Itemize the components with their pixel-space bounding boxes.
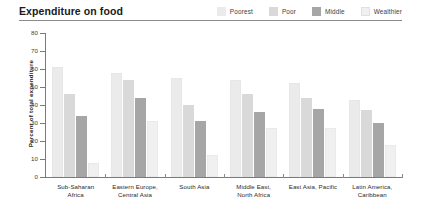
legend-label: Wealthier — [374, 8, 402, 15]
x-axis-group-tick — [224, 174, 225, 178]
bar-middle — [254, 112, 265, 177]
bar-poor — [64, 94, 75, 177]
bar-poorest — [230, 80, 241, 177]
chart-legend: PoorestPoorMiddleWealthier — [217, 7, 402, 16]
y-axis-tick — [40, 177, 46, 178]
bar-poorest — [349, 100, 360, 177]
bar-wealthier — [385, 145, 396, 177]
x-axis-group-tick — [283, 174, 284, 178]
bar-poor — [242, 94, 253, 177]
legend-swatch-icon — [361, 7, 370, 16]
bar-middle — [195, 121, 206, 177]
x-axis-category-label: Sub-SaharanAfrica — [46, 183, 105, 198]
bar-poorest — [289, 83, 300, 177]
bar-group — [105, 33, 164, 177]
legend-swatch-icon — [312, 7, 321, 16]
x-axis-category-label: East Asia, Pacific — [283, 183, 342, 191]
chart-figure: Expenditure on food PoorestPoorMiddleWea… — [0, 0, 421, 211]
bar-group — [46, 33, 105, 177]
legend-swatch-icon — [217, 7, 226, 16]
legend-label: Poor — [282, 8, 296, 15]
legend-item-poor: Poor — [269, 7, 296, 16]
bar-poor — [301, 98, 312, 177]
bar-middle — [313, 109, 324, 177]
bar-poor — [361, 110, 372, 177]
y-axis-tick-label: 30 — [20, 120, 38, 126]
legend-swatch-icon — [269, 7, 278, 16]
x-axis-group-tick — [105, 174, 106, 178]
chart-title: Expenditure on food — [19, 5, 123, 17]
bar-poorest — [111, 73, 122, 177]
bar-wealthier — [147, 121, 158, 177]
bar-wealthier — [207, 155, 218, 177]
y-axis-tick-label: 80 — [20, 30, 38, 36]
chart-header: Expenditure on food PoorestPoorMiddleWea… — [19, 3, 402, 19]
y-axis-tick-label: 40 — [20, 102, 38, 108]
bar-poorest — [52, 67, 63, 177]
bar-group — [343, 33, 402, 177]
y-axis-tick-label: 50 — [20, 84, 38, 90]
legend-item-wealthier: Wealthier — [361, 7, 402, 16]
x-axis-end-tick — [402, 174, 403, 178]
bar-group — [283, 33, 342, 177]
bar-middle — [135, 98, 146, 177]
legend-label: Poorest — [230, 8, 253, 15]
bar-poor — [123, 80, 134, 177]
y-axis-tick-label: 0 — [20, 174, 38, 180]
x-axis-category-label: Middle East,North Africa — [224, 183, 283, 198]
x-axis-group-tick — [165, 174, 166, 178]
x-axis-group-tick — [343, 174, 344, 178]
y-axis-tick-label: 20 — [20, 138, 38, 144]
bar-wealthier — [325, 128, 336, 177]
bar-poor — [183, 105, 194, 177]
bar-group — [165, 33, 224, 177]
bar-wealthier — [88, 163, 99, 177]
y-axis-tick-label: 70 — [20, 48, 38, 54]
bar-group — [224, 33, 283, 177]
y-axis-tick-label: 10 — [20, 156, 38, 162]
bar-middle — [373, 123, 384, 177]
x-axis-category-label: Eastern Europe,Central Asia — [105, 183, 164, 198]
plot-area — [46, 33, 402, 177]
bar-middle — [76, 116, 87, 177]
legend-item-poorest: Poorest — [217, 7, 253, 16]
legend-label: Middle — [325, 8, 345, 15]
x-axis-category-label: South Asia — [165, 183, 224, 191]
bar-wealthier — [266, 128, 277, 177]
x-axis-category-label: Latin America,Caribbean — [343, 183, 402, 198]
bar-poorest — [171, 78, 182, 177]
legend-item-middle: Middle — [312, 7, 345, 16]
y-axis-tick-label: 60 — [20, 66, 38, 72]
header-divider — [19, 20, 402, 21]
